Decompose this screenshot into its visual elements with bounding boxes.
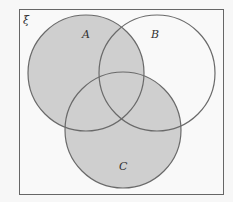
set-a-label: A <box>81 28 90 41</box>
set-b-label: B <box>150 28 159 41</box>
universal-set-label: ξ <box>23 14 30 27</box>
set-c-label: C <box>119 160 128 173</box>
venn-diagram: ξ A B C <box>0 0 233 202</box>
